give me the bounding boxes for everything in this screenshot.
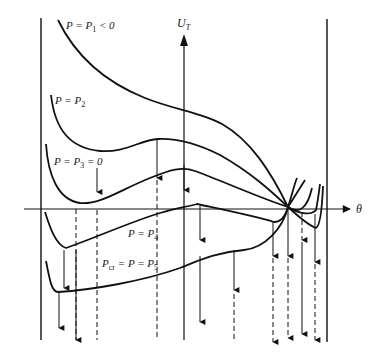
potential-energy-diagram (0, 0, 387, 362)
curve-p1-right (288, 178, 297, 207)
label-p4: P = P4 (128, 228, 158, 242)
ut-axis-arrowhead (180, 34, 188, 46)
label-p5-critical: Pcr = P = P5 (102, 258, 158, 272)
curve-p2-right (288, 180, 305, 207)
curve-p4 (45, 204, 288, 248)
curve-p1 (58, 20, 288, 207)
label-p2: P = P2 (55, 95, 85, 109)
theta-axis-label: θ (356, 203, 362, 215)
drop-lines (59, 140, 315, 342)
ut-axis-label: UT (177, 17, 190, 32)
label-p1: P = P1 < 0 (66, 20, 115, 34)
curve-p5 (46, 207, 288, 292)
label-p3: P = P3 = 0 (54, 156, 103, 170)
curve-p3-right (288, 188, 312, 210)
